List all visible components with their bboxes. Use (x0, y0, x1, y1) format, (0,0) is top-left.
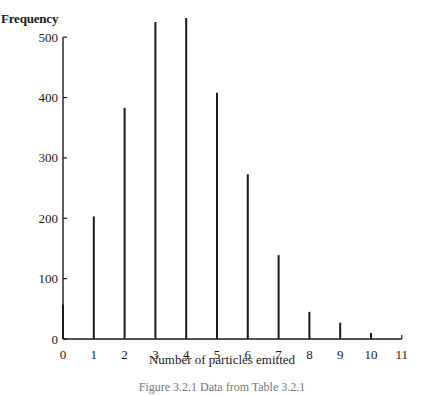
y-tick-label: 200 (39, 211, 59, 226)
y-tick-label: 100 (39, 271, 59, 286)
bar-series (63, 18, 371, 339)
y-axis: 0100200300400500 (39, 30, 68, 347)
y-tick-label: 500 (39, 30, 59, 45)
y-tick-label: 0 (52, 332, 59, 347)
x-axis-title: Number of particles emitted (0, 352, 422, 368)
figure-caption: Figure 3.2.1 Data from Table 3.2.1 (0, 380, 422, 395)
y-tick-label: 300 (39, 150, 59, 165)
y-tick-label: 400 (39, 90, 59, 105)
